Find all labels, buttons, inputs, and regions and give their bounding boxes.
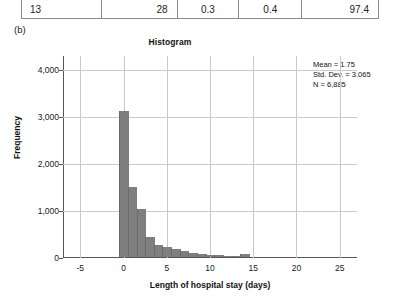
x-axis-label: Length of hospital stay (days) — [63, 280, 357, 290]
gridline-vertical — [210, 56, 211, 258]
table-cell: 0.3 — [178, 0, 240, 18]
y-axis-line — [63, 56, 64, 258]
y-axis-tick-mark — [59, 117, 63, 118]
gridline-vertical — [296, 56, 297, 258]
histogram-bar — [240, 254, 250, 257]
y-axis-tick-mark — [59, 70, 63, 71]
x-axis-tick-label: 5 — [164, 263, 169, 273]
table-cell: 0.4 — [239, 0, 302, 18]
x-axis-tick-label: 25 — [335, 263, 344, 273]
x-axis-tick-label: 20 — [292, 263, 301, 273]
gridline-vertical — [340, 56, 341, 258]
table-cell: 28 — [102, 0, 178, 18]
table-row: 13 28 0.3 0.4 97.4 — [21, 0, 379, 19]
gridline-vertical — [253, 56, 254, 258]
x-axis-tick-label: 0 — [121, 263, 126, 273]
gridline-vertical — [167, 56, 168, 258]
histogram-figure: Histogram Mean = 1.75 Std. Dev. = 3.065 … — [0, 34, 400, 301]
y-axis-tick-mark — [59, 164, 63, 165]
y-axis-tick-mark — [59, 211, 63, 212]
table-cell: 13 — [22, 0, 102, 18]
x-axis-tick-label: 15 — [249, 263, 258, 273]
y-axis-tick-mark — [59, 258, 63, 259]
chart-title: Histogram — [0, 37, 340, 47]
gridline-vertical — [80, 56, 81, 258]
table-cell: 97.4 — [302, 0, 378, 18]
x-axis-tick-label: -5 — [77, 263, 85, 273]
plot-area: 01,0002,0003,0004,000-50510152025 — [63, 56, 357, 258]
x-axis-tick-label: 10 — [205, 263, 214, 273]
y-axis-label: Frequency — [12, 116, 22, 159]
